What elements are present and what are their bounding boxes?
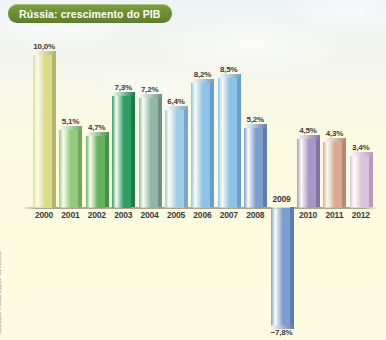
bar-2001: [59, 129, 85, 207]
bar-value-label: 4,7%: [80, 123, 114, 132]
bar-2010: [297, 138, 323, 207]
bar-value-label: −7,8%: [265, 328, 299, 337]
bar-group: 7,3%2003: [112, 24, 138, 340]
bar-group: 10,0%2000: [33, 24, 59, 340]
bar-side-shadow: [210, 82, 214, 207]
axis-tick-label-2008: 2008: [238, 210, 272, 220]
chart-figure: Rússia: crescimento do PIB 10,0%20005,1%…: [0, 0, 386, 340]
bar-side-shadow: [290, 207, 294, 326]
bar-value-label: 3,4%: [344, 143, 378, 152]
bar-top-cap: [165, 106, 188, 110]
bar-top-cap: [86, 132, 109, 136]
bar-side-shadow: [78, 129, 82, 207]
page-title: Rússia: crescimento do PIB: [19, 8, 160, 20]
bar-group: 4,7%2002: [86, 24, 112, 340]
bar-body: [33, 54, 52, 208]
image-credit: Cassiano Róda/Arquivo da editora: [0, 252, 2, 334]
bar-side-shadow: [316, 138, 320, 207]
bar-group: 3,4%2012: [350, 24, 376, 340]
bar-body: [139, 97, 158, 208]
bar-side-shadow: [369, 155, 373, 207]
bar-body: [165, 109, 184, 208]
bar-body: [297, 138, 316, 208]
bar-top-cap: [244, 124, 267, 128]
bar-2009: [271, 207, 297, 326]
bar-2000: [33, 54, 59, 207]
bar-side-shadow: [184, 109, 188, 207]
bar-top-cap: [323, 138, 346, 142]
bar-side-shadow: [237, 77, 241, 207]
bar-side-shadow: [52, 54, 56, 207]
axis-tick-label-2009: 2009: [265, 194, 299, 204]
bar-group: 5,1%2001: [59, 24, 85, 340]
bar-body: [244, 127, 263, 208]
bar-group: 8,5%2007: [218, 24, 244, 340]
bar-2006: [191, 82, 217, 207]
bar-value-label: 7,2%: [133, 85, 167, 94]
bar-2007: [218, 77, 244, 207]
bar-body: [350, 155, 369, 208]
bar-body: [218, 77, 237, 208]
axis-tick-label-2012: 2012: [344, 210, 378, 220]
bar-body: [323, 141, 342, 208]
bar-group: 5,2%2008: [244, 24, 270, 340]
bar-value-label: 8,5%: [212, 65, 246, 74]
bar-body: [271, 207, 290, 327]
plot-area: 10,0%20005,1%20014,7%20027,3%20037,2%200…: [0, 24, 386, 340]
bar-value-label: 4,3%: [317, 129, 351, 138]
bar-top-cap: [350, 152, 373, 156]
chart-title-banner: Rússia: crescimento do PIB: [8, 4, 172, 23]
bar-2002: [86, 135, 112, 207]
bar-group: −7,8%2009: [271, 24, 297, 340]
bar-2012: [350, 155, 376, 207]
bar-body: [191, 82, 210, 208]
bar-body: [59, 129, 78, 208]
bar-2005: [165, 109, 191, 207]
bar-2004: [139, 97, 165, 207]
bar-2003: [112, 95, 138, 207]
bar-group: 7,2%2004: [139, 24, 165, 340]
bar-side-shadow: [131, 95, 135, 207]
bar-top-cap: [33, 51, 56, 55]
bar-top-cap: [218, 74, 241, 78]
bar-side-shadow: [158, 97, 162, 207]
bar-group: 4,5%2010: [297, 24, 323, 340]
bar-value-label: 10,0%: [27, 42, 61, 51]
bar-body: [112, 95, 131, 208]
bar-body: [86, 135, 105, 208]
bar-top-cap: [191, 79, 214, 83]
bar-group: 4,3%2011: [323, 24, 349, 340]
bar-value-label: 6,4%: [159, 97, 193, 106]
bar-side-shadow: [105, 135, 109, 207]
bar-value-label: 5,2%: [238, 115, 272, 124]
